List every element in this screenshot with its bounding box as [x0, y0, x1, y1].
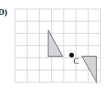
preimage-triangle: [48, 30, 62, 56]
center-point-c-label: C: [73, 57, 78, 66]
geometry-figure: D) C: [0, 0, 106, 98]
geometry-canvas: C: [0, 0, 106, 98]
grid-lines: [15, 9, 100, 82]
image-triangle: [82, 56, 96, 82]
